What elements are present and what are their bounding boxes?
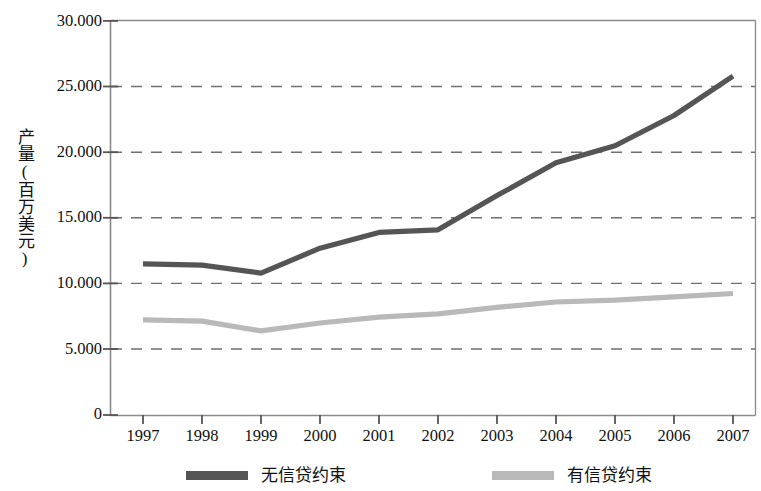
series-line-unconstrained	[143, 294, 733, 331]
legend-swatch-icon-constrained	[492, 471, 554, 480]
legend-swatch-icon-unconstrained	[186, 471, 248, 480]
chart-legend: 无信贷约束 有信贷约束	[0, 460, 761, 491]
legend-label-constrained: 有信贷约束	[567, 466, 652, 485]
legend-item-unconstrained[interactable]: 无信贷约束	[186, 460, 346, 491]
legend-item-constrained[interactable]: 有信贷约束	[492, 460, 652, 491]
series-line-constrained	[143, 76, 733, 273]
chart-container: 产量(百万美元) 30.000 25.000 20.000 15.000 10.…	[0, 0, 761, 491]
plot-area	[0, 0, 761, 491]
legend-label-unconstrained: 无信贷约束	[261, 466, 346, 485]
x-axis-ticks	[143, 415, 733, 424]
